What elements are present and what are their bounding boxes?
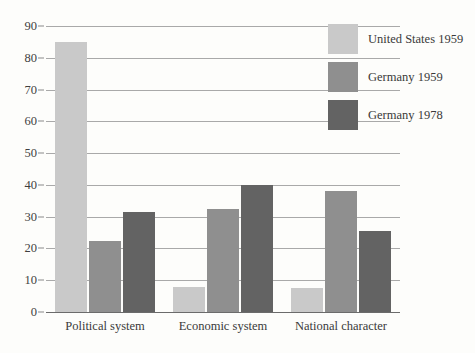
bar-group: [53, 26, 157, 312]
axis-baseline: [46, 312, 400, 313]
y-axis-tick-mark: [38, 248, 44, 249]
bar: [291, 288, 323, 312]
bar: [241, 185, 273, 312]
legend-label: Germany 1978: [368, 109, 443, 122]
y-axis-tick-mark: [38, 312, 44, 313]
bar: [173, 287, 205, 312]
chart-legend: United States 1959Germany 1959Germany 19…: [328, 20, 473, 134]
legend-label: Germany 1959: [368, 71, 443, 84]
legend-item: United States 1959: [328, 20, 473, 58]
y-axis-tick-mark: [38, 153, 44, 154]
y-axis-tick-label: 80: [25, 52, 38, 65]
y-axis-tick-mark: [38, 216, 44, 217]
y-axis-tick-label: 90: [25, 20, 38, 33]
y-axis-tick-mark: [38, 121, 44, 122]
y-axis-tick-label: 10: [25, 274, 38, 287]
legend-color-swatch: [328, 62, 358, 92]
legend-color-swatch: [328, 24, 358, 54]
y-axis-tick-mark: [38, 280, 44, 281]
bar: [207, 209, 239, 312]
bar-chart-figure: 0102030405060708090 Political systemEcon…: [0, 0, 475, 353]
y-axis-tick-label: 50: [25, 147, 38, 160]
bar: [89, 241, 121, 313]
y-axis-tick-label: 20: [25, 242, 38, 255]
y-axis-tick-mark: [38, 184, 44, 185]
y-axis-tick-mark: [38, 57, 44, 58]
y-axis-tick-mark: [38, 26, 44, 27]
bar-group: [171, 26, 275, 312]
bar: [325, 191, 357, 312]
y-axis-tick-label: 30: [25, 210, 38, 223]
bar: [55, 42, 87, 312]
legend-label: United States 1959: [368, 33, 463, 46]
y-axis-tick-label: 0: [31, 306, 37, 319]
legend-item: Germany 1959: [328, 58, 473, 96]
y-axis-tick-label: 70: [25, 83, 38, 96]
bar: [359, 231, 391, 312]
y-axis-tick-mark: [38, 89, 44, 90]
y-axis-tick-label: 40: [25, 179, 38, 192]
y-axis-tick-label: 60: [25, 115, 38, 128]
legend-color-swatch: [328, 100, 358, 130]
legend-item: Germany 1978: [328, 96, 473, 134]
category-label: National character: [251, 320, 431, 333]
bar: [123, 212, 155, 312]
